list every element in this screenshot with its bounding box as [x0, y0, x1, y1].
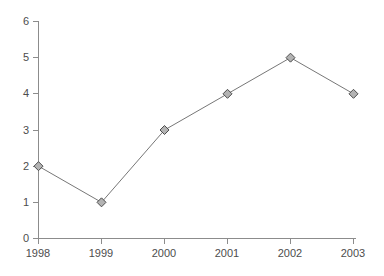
y-tick-label-3: 3 [23, 124, 29, 136]
chart-canvas: 0 1 2 3 4 5 6 1998 1999 2000 2001 2002 2… [0, 0, 384, 276]
x-tick-label-1999: 1999 [89, 247, 113, 259]
y-tick-label-2: 2 [23, 160, 29, 172]
x-tick-label-2003: 2003 [341, 247, 365, 259]
x-tick-label-2000: 2000 [152, 247, 176, 259]
y-tick-label-6: 6 [23, 15, 29, 27]
chart-background [0, 0, 384, 276]
y-tick-label-4: 4 [23, 87, 29, 99]
x-tick-label-2002: 2002 [278, 247, 302, 259]
y-tick-label-1: 1 [23, 196, 29, 208]
line-chart: 0 1 2 3 4 5 6 1998 1999 2000 2001 2002 2… [0, 0, 384, 276]
x-tick-label-2001: 2001 [215, 247, 239, 259]
x-tick-label-1998: 1998 [26, 247, 50, 259]
y-tick-label-0: 0 [23, 232, 29, 244]
y-tick-label-5: 5 [23, 51, 29, 63]
